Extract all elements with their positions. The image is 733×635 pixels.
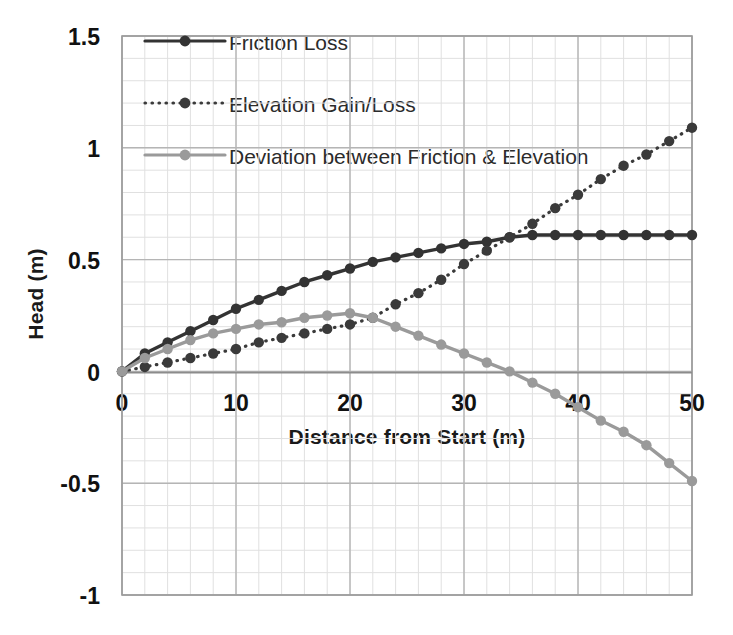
major-gridlines (122, 36, 692, 595)
plot-area (0, 0, 733, 635)
plot-frame (122, 36, 692, 595)
series-1 (117, 122, 697, 376)
minor-gridlines (122, 36, 692, 595)
series-2 (117, 308, 697, 486)
chart-figure: 1.5 1 0.5 0 -0.5 -1 0 10 20 30 40 50 Hea… (0, 0, 733, 635)
